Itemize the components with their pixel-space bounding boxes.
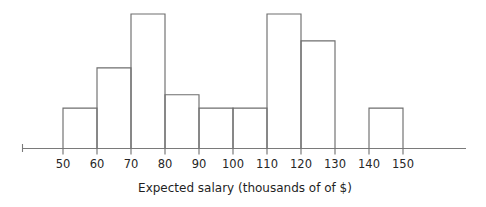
histogram-bar [369, 108, 403, 148]
x-axis-tick-labels: 5060708090100110120130140150 [56, 157, 414, 171]
histogram-bar [165, 95, 199, 149]
bar-series [63, 14, 403, 149]
histogram-bar [131, 14, 165, 149]
x-axis-tick-label: 50 [56, 157, 71, 171]
x-axis-tick-label: 60 [90, 157, 105, 171]
x-axis-tick-label: 110 [256, 157, 278, 171]
histogram-bar [63, 108, 97, 148]
histogram-bar [301, 41, 335, 149]
x-axis-tick-label: 100 [222, 157, 244, 171]
histogram-bar [233, 108, 267, 148]
x-axis-ticks [63, 149, 403, 155]
x-axis-tick-label: 140 [358, 157, 380, 171]
x-axis-tick-label: 90 [192, 157, 207, 171]
x-axis-tick-label: 130 [324, 157, 346, 171]
histogram-plot: 5060708090100110120130140150 Expected sa… [0, 0, 486, 207]
histogram-figure: 5060708090100110120130140150 Expected sa… [0, 0, 486, 207]
histogram-bar [267, 14, 301, 149]
x-axis-title: Expected salary (thousands of of $) [138, 181, 352, 195]
x-axis-tick-label: 80 [158, 157, 173, 171]
x-axis-tick-label: 120 [290, 157, 312, 171]
histogram-bar [97, 68, 131, 149]
histogram-bar [199, 108, 233, 148]
x-axis-tick-label: 150 [392, 157, 414, 171]
x-axis-tick-label: 70 [124, 157, 139, 171]
